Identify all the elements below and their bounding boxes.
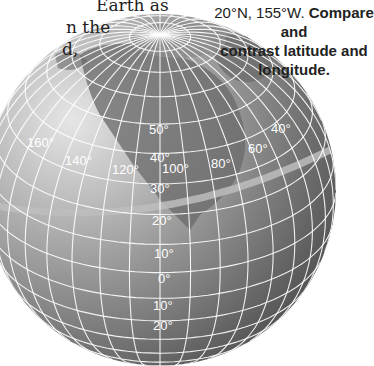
body-text-line: n the [0,16,169,38]
body-text-line: d, [0,38,169,60]
latitude-label: 30° [150,181,170,196]
longitude-label: 160° [27,135,54,150]
figure-caption: 20°N, 155°W. Compare and contrast latitu… [214,3,374,79]
latitude-label: 40° [150,150,170,165]
latitude-label: 0° [158,271,170,286]
longitude-label: 140° [65,153,92,168]
latitude-label: 50° [149,122,169,137]
latitude-label: 20° [153,318,173,333]
longitude-label: 120° [112,162,139,177]
coordinate-text: 20°N, 155°W. [214,4,304,21]
body-text-fragment: Earth as n the d, [0,0,169,60]
body-text-line: Earth as [0,0,169,16]
latitude-label: 20° [152,213,172,228]
latitude-label: 10° [154,246,174,261]
longitude-label: 60° [248,141,268,156]
latitude-label: 10° [153,298,173,313]
longitude-label: 40° [271,121,291,136]
question-text: longitude. [214,60,374,79]
longitude-label: 80° [211,156,231,171]
question-text: contrast latitude and [214,41,374,60]
